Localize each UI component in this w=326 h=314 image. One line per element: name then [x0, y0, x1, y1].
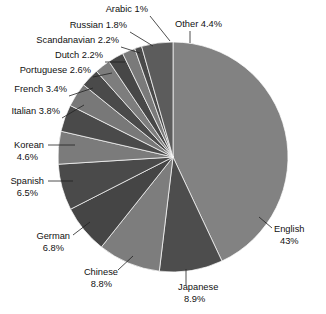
- slice-label-japanese-value: 8.9%: [184, 294, 205, 304]
- slice-label-portuguese: Portuguese 2.6%: [20, 65, 91, 75]
- language-distribution-pie-chart: Arabic 1%Other 4.4%Russian 1.8%Scandanav…: [0, 0, 326, 314]
- slice-label-french-name: French 3.4%: [14, 84, 67, 94]
- slice-label-german-name: German: [36, 231, 70, 241]
- slice-label-other-name: Other 4.4%: [175, 19, 222, 29]
- slice-label-arabic-name: Arabic 1%: [106, 4, 148, 14]
- slice-label-russian: Russian 1.8%: [70, 20, 127, 30]
- slice-label-italian-name: Italian 3.8%: [11, 106, 60, 116]
- slice-label-japanese-name: Japanese: [178, 282, 218, 292]
- slice-label-scandanavian-name: Scandanavian 2.2%: [36, 35, 119, 45]
- slice-label-italian: Italian 3.8%: [11, 106, 60, 116]
- slice-label-english-value: 43%: [280, 236, 299, 246]
- slice-label-other: Other 4.4%: [175, 19, 222, 29]
- slice-label-korean-value: 4.6%: [17, 152, 38, 162]
- slice-label-dutch: Dutch 2.2%: [55, 50, 103, 60]
- slice-label-arabic: Arabic 1%: [106, 4, 148, 14]
- slice-label-portuguese-name: Portuguese 2.6%: [20, 65, 91, 75]
- slice-label-chinese-name: Chinese: [84, 267, 118, 277]
- pie-slices: [58, 42, 288, 272]
- slice-label-scandanavian: Scandanavian 2.2%: [36, 35, 119, 45]
- slice-label-korean-name: Korean: [14, 140, 44, 150]
- slice-label-chinese-value: 8.8%: [91, 279, 112, 289]
- slice-label-dutch-name: Dutch 2.2%: [55, 50, 103, 60]
- pie-chart-page: Arabic 1%Other 4.4%Russian 1.8%Scandanav…: [0, 0, 326, 314]
- slice-label-english-name: English: [274, 224, 305, 234]
- slice-label-spanish-value: 6.5%: [17, 188, 38, 198]
- slice-label-french: French 3.4%: [14, 84, 67, 94]
- slice-label-german-value: 6.8%: [43, 243, 64, 253]
- slice-label-spanish-name: Spanish: [10, 176, 44, 186]
- slice-label-russian-name: Russian 1.8%: [70, 20, 127, 30]
